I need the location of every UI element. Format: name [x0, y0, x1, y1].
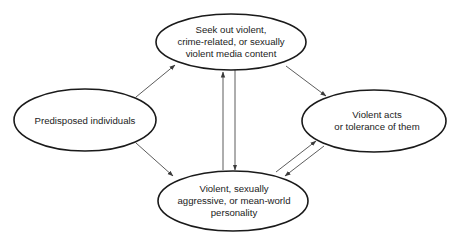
edge-predisposed-to-personality — [136, 143, 173, 176]
node-predisposed-label: Predisposed individuals — [35, 115, 136, 127]
label-line: Predisposed individuals — [35, 115, 136, 127]
node-personality-label: Violent, sexually aggressive, or mean-wo… — [177, 183, 290, 219]
node-violent-acts-label: Violent acts or tolerance of them — [334, 109, 419, 133]
label-line: Violent acts — [334, 109, 419, 121]
label-line: aggressive, or mean-world — [177, 195, 290, 207]
edge-seek-media-to-violent-acts — [286, 66, 326, 96]
label-line: or tolerance of them — [334, 121, 419, 133]
label-line: Violent, sexually — [177, 183, 290, 195]
label-line: violent media content — [177, 48, 284, 60]
label-line: Seek out violent, — [177, 24, 284, 36]
edge-predisposed-to-seek-media — [136, 65, 175, 97]
label-line: crime-related, or sexually — [177, 36, 284, 48]
label-line: personality — [177, 207, 290, 219]
node-seek-media-label: Seek out violent, crime-related, or sexu… — [177, 24, 284, 60]
